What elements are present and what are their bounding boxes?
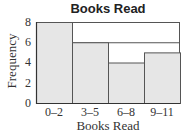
bar-0–2: [37, 23, 73, 104]
plot-area: [0, 0, 194, 140]
bar-9–11: [145, 53, 181, 104]
bar-3–5: [73, 43, 109, 104]
bar-6–8: [109, 63, 145, 104]
